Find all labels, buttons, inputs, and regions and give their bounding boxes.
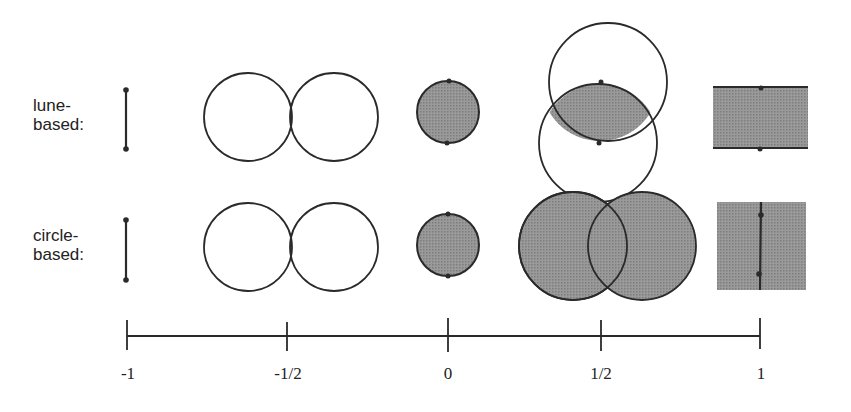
tick-label-minus-1: -1 (121, 364, 135, 383)
circle-plane-one (717, 202, 806, 290)
tick-label-half: 1/2 (590, 364, 612, 383)
lune-based-row (123, 23, 808, 202)
circle-pair-half (519, 192, 696, 300)
lune-pair-half (539, 23, 667, 202)
lune-pair-minus-half (204, 73, 378, 161)
tick-label-zero: 0 (444, 364, 453, 383)
lune-strip-one (713, 86, 808, 152)
circle-based-row (123, 192, 806, 300)
parameter-axis: -1 -1/2 0 1/2 1 (121, 318, 765, 383)
lune-segment-minus-1 (123, 87, 129, 152)
circle-segment-minus-1 (123, 217, 129, 283)
tick-label-minus-half: -1/2 (274, 364, 301, 383)
tick-label-one: 1 (757, 364, 766, 383)
circle-pair-minus-half (204, 203, 378, 291)
lune-circle-diagram: -1 -1/2 0 1/2 1 (0, 0, 851, 412)
lune-circle-zero (417, 79, 479, 146)
circle-circle-zero (417, 212, 479, 279)
